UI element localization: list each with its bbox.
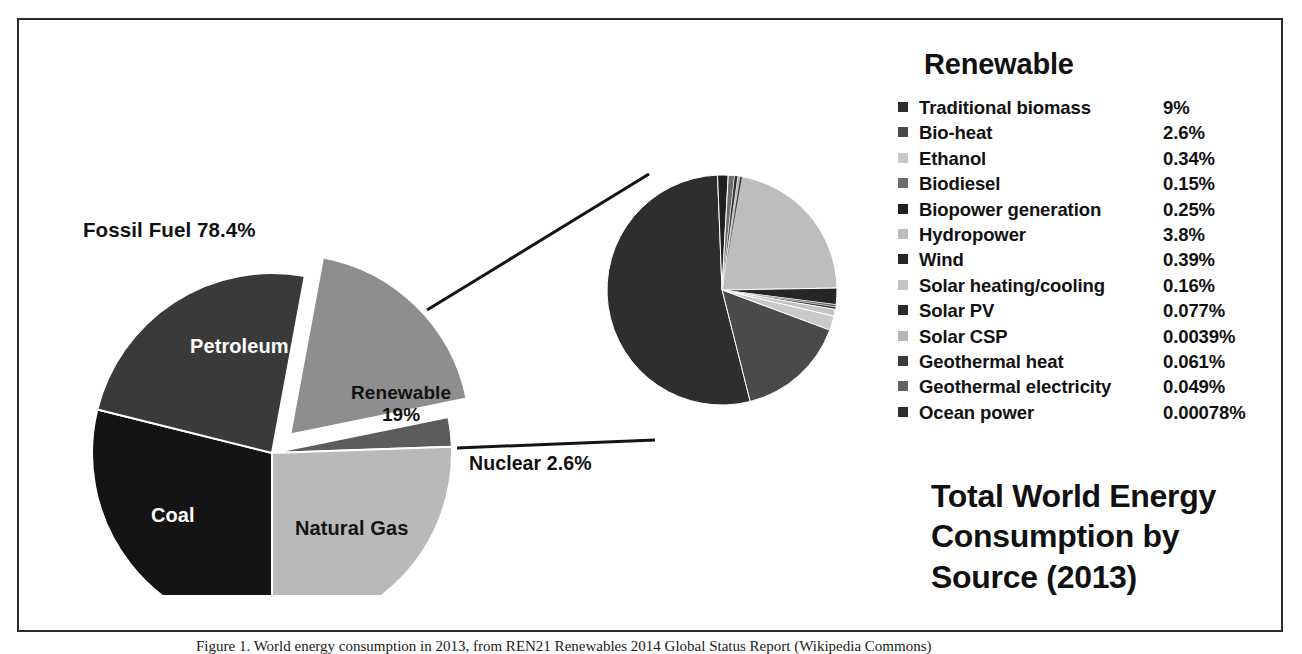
- connector-line-lower: [457, 440, 655, 448]
- legend-item-traditional-biomass[interactable]: Traditional biomass9%: [898, 95, 1278, 120]
- pie-label-petroleum: Petroleum: [190, 335, 289, 358]
- pie-label-natural-gas: Natural Gas: [295, 517, 408, 540]
- legend-item-value: 0.061%: [1163, 349, 1225, 374]
- legend-item-label: Solar CSP: [919, 324, 1163, 349]
- legend-item-ethanol[interactable]: Ethanol0.34%: [898, 146, 1278, 171]
- legend-swatch-icon: [898, 102, 908, 112]
- legend-item-label: Geothermal electricity: [919, 374, 1163, 399]
- legend-item-biodiesel[interactable]: Biodiesel0.15%: [898, 171, 1278, 196]
- legend-item-value: 0.39%: [1163, 247, 1215, 272]
- legend-swatch-icon: [898, 204, 908, 214]
- legend-item-solar-pv[interactable]: Solar PV0.077%: [898, 298, 1278, 323]
- figure-canvas: Fossil Fuel 78.4% Petroleum Coal Natural…: [0, 0, 1302, 654]
- pie-label-renewable: Renewable 19%: [351, 382, 451, 427]
- pie-label-nuclear: Nuclear 2.6%: [469, 452, 592, 475]
- pie-label-renewable-name: Renewable: [351, 382, 451, 404]
- pie-label-coal: Coal: [151, 504, 195, 527]
- legend-item-label: Traditional biomass: [919, 95, 1163, 120]
- legend-item-value: 0.049%: [1163, 374, 1225, 399]
- legend-item-solar-csp[interactable]: Solar CSP0.0039%: [898, 324, 1278, 349]
- legend-swatch-icon: [898, 254, 908, 264]
- chart-title-line-1: Total World Energy: [931, 476, 1261, 516]
- legend-item-hydropower[interactable]: Hydropower3.8%: [898, 222, 1278, 247]
- legend-item-value: 0.25%: [1163, 197, 1215, 222]
- legend-item-label: Ocean power: [919, 400, 1163, 425]
- legend-item-label: Solar heating/cooling: [919, 273, 1163, 298]
- pie-label-fossil-fuel: Fossil Fuel 78.4%: [83, 218, 256, 242]
- legend-item-label: Ethanol: [919, 146, 1163, 171]
- legend-swatch-icon: [898, 407, 908, 417]
- legend-swatch-icon: [898, 331, 908, 341]
- legend-item-label: Solar PV: [919, 298, 1163, 323]
- legend-item-value: 0.16%: [1163, 273, 1215, 298]
- legend-swatch-icon: [898, 153, 908, 163]
- chart-title-line-3: Source (2013): [931, 557, 1261, 597]
- legend-rows: Traditional biomass9%Bio-heat2.6%Ethanol…: [898, 95, 1278, 425]
- legend-item-value: 0.0039%: [1163, 324, 1235, 349]
- legend-title: Renewable: [924, 48, 1278, 81]
- legend-swatch-icon: [898, 127, 908, 137]
- legend-item-label: Geothermal heat: [919, 349, 1163, 374]
- legend-item-label: Biodiesel: [919, 171, 1163, 196]
- pie-label-renewable-value: 19%: [351, 404, 451, 426]
- renewable-legend: Renewable Traditional biomass9%Bio-heat2…: [898, 48, 1278, 425]
- chart-title-line-2: Consumption by: [931, 516, 1261, 556]
- legend-item-value: 0.34%: [1163, 146, 1215, 171]
- legend-item-bio-heat[interactable]: Bio-heat2.6%: [898, 120, 1278, 145]
- legend-item-label: Biopower generation: [919, 197, 1163, 222]
- legend-item-geothermal-heat[interactable]: Geothermal heat0.061%: [898, 349, 1278, 374]
- legend-swatch-icon: [898, 178, 908, 188]
- legend-item-label: Hydropower: [919, 222, 1163, 247]
- legend-item-value: 0.00078%: [1163, 400, 1246, 425]
- legend-item-label: Bio-heat: [919, 120, 1163, 145]
- legend-item-label: Wind: [919, 247, 1163, 272]
- legend-swatch-icon: [898, 305, 908, 315]
- renewable-breakdown-pie-chart: [579, 140, 869, 430]
- legend-item-value: 3.8%: [1163, 222, 1205, 247]
- legend-item-value: 9%: [1163, 95, 1190, 120]
- legend-item-solar-heating-cooling[interactable]: Solar heating/cooling0.16%: [898, 273, 1278, 298]
- legend-swatch-icon: [898, 356, 908, 366]
- legend-swatch-icon: [898, 229, 908, 239]
- legend-swatch-icon: [898, 381, 908, 391]
- legend-item-wind[interactable]: Wind0.39%: [898, 247, 1278, 272]
- legend-item-value: 2.6%: [1163, 120, 1205, 145]
- legend-item-value: 0.077%: [1163, 298, 1225, 323]
- figure-frame: Fossil Fuel 78.4% Petroleum Coal Natural…: [17, 18, 1283, 632]
- figure-caption: Figure 1. World energy consumption in 20…: [196, 638, 1196, 654]
- chart-title: Total World EnergyConsumption bySource (…: [931, 476, 1261, 597]
- legend-item-ocean-power[interactable]: Ocean power0.00078%: [898, 400, 1278, 425]
- legend-swatch-icon: [898, 280, 908, 290]
- legend-item-geothermal-electricity[interactable]: Geothermal electricity0.049%: [898, 374, 1278, 399]
- legend-item-biopower-generation[interactable]: Biopower generation0.25%: [898, 197, 1278, 222]
- legend-item-value: 0.15%: [1163, 171, 1215, 196]
